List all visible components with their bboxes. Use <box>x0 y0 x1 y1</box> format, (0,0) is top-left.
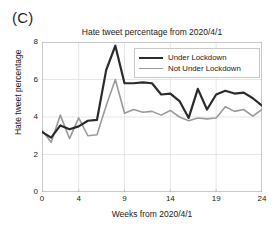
x-tick-label: 4 <box>69 195 89 203</box>
x-tick-label: 14 <box>160 195 180 203</box>
y-axis-ticks: 02468 <box>22 42 38 192</box>
legend-item-not-under-lockdown: Not Under Lockdown <box>139 63 255 74</box>
x-tick-label: 9 <box>115 195 135 203</box>
y-tick-label: 8 <box>24 38 38 46</box>
panel-label: (C) <box>12 10 33 25</box>
y-tick-label: 6 <box>24 76 38 84</box>
x-tick-label: 0 <box>32 195 52 203</box>
y-axis-label: Hate tweet percentage <box>14 27 23 157</box>
legend-label-under-lockdown: Under Lockdown <box>168 54 227 62</box>
x-axis-label: Weeks from 2020/4/1 <box>42 210 262 219</box>
x-tick-label: 19 <box>206 195 226 203</box>
y-tick-label: 2 <box>24 151 38 159</box>
figure-panel-c: (C) Hate tweet percentage from 2020/4/1 … <box>0 0 278 234</box>
chart-legend: Under Lockdown Not Under Lockdown <box>134 48 260 78</box>
y-tick-label: 4 <box>24 113 38 121</box>
chart-title: Hate tweet percentage from 2020/4/1 <box>42 28 262 37</box>
legend-line-icon-under-lockdown <box>139 57 163 59</box>
x-axis-ticks: 049141924 <box>42 195 262 207</box>
legend-line-icon-not-under-lockdown <box>139 68 163 69</box>
series-line <box>42 80 262 143</box>
legend-item-under-lockdown: Under Lockdown <box>139 52 255 63</box>
x-tick-label: 24 <box>252 195 272 203</box>
legend-label-not-under-lockdown: Not Under Lockdown <box>168 65 241 73</box>
